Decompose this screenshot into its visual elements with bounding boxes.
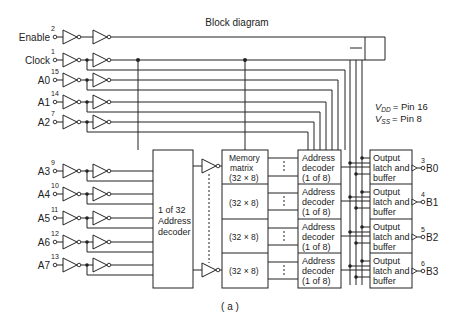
input-pin-a3: 9 bbox=[51, 159, 55, 166]
input-labels: Enable 2 Clock 1 A0 15 A1 14 A2 7 A3 9 A… bbox=[19, 25, 59, 271]
output-b3: B36 bbox=[412, 260, 439, 277]
addr-decoder-0-line1: Address bbox=[302, 153, 336, 163]
input-label-a5: A5 bbox=[38, 213, 51, 224]
addr-decoder-3-line1: Address bbox=[302, 256, 336, 266]
addr-decoder-2-line1: Address bbox=[302, 222, 336, 232]
addr-decoder-0-line3: (1 of 8) bbox=[302, 173, 331, 183]
input-pin-enable: 2 bbox=[51, 25, 55, 32]
input-buffers bbox=[53, 30, 385, 44]
diagram-title: Block diagram bbox=[205, 17, 268, 28]
buffer-chain-a6 bbox=[53, 235, 153, 252]
buffer-chain-a1 bbox=[53, 95, 111, 112]
output-label: B0 bbox=[426, 163, 439, 174]
input-label-a3: A3 bbox=[38, 166, 51, 177]
power-note: VDD= Pin 16 VSS= Pin 8 bbox=[375, 101, 428, 125]
memory-cell-0: (32 × 8) bbox=[229, 173, 259, 183]
input-label-a6: A6 bbox=[38, 237, 51, 248]
input-pin-a6: 12 bbox=[51, 230, 59, 237]
input-pin-a2: 7 bbox=[51, 110, 55, 117]
buffer-chain-a7 bbox=[53, 258, 153, 275]
figure-caption: ( a ) bbox=[221, 301, 239, 312]
input-label-a2: A2 bbox=[38, 117, 51, 128]
addr-decoder-1-line2: decoder bbox=[302, 197, 335, 207]
input-pin-a0: 15 bbox=[51, 68, 59, 75]
latch-1-line3: buffer bbox=[373, 207, 396, 217]
latch-1-line2: latch and bbox=[373, 197, 410, 207]
decoder32-line3: decoder bbox=[158, 227, 191, 237]
addr-decoder-1-line3: (1 of 8) bbox=[302, 207, 331, 217]
block-diagram: Block diagram Enable 2 Clock 1 A0 15 A1 … bbox=[0, 0, 462, 336]
memory-matrix-block: Memory matrix (32 × 8) (32 × 8) (32 × 8)… bbox=[222, 150, 268, 288]
input-label-a4: A4 bbox=[38, 189, 51, 200]
output-pin: 3 bbox=[421, 157, 425, 164]
latch-2-line2: latch and bbox=[373, 232, 410, 242]
input-pin-a4: 10 bbox=[51, 182, 59, 189]
decoder32-line1: 1 of 32 bbox=[158, 205, 186, 215]
addr-decoder-3-line2: decoder bbox=[302, 266, 335, 276]
latch-0-line2: latch and bbox=[373, 163, 410, 173]
buffer-chain-clock bbox=[53, 53, 111, 70]
input-label-clock: Clock bbox=[25, 55, 51, 66]
enable-buffer-chain bbox=[53, 30, 385, 44]
output-label: B3 bbox=[426, 266, 439, 277]
output-label: B1 bbox=[426, 197, 439, 208]
output-pin: 4 bbox=[421, 191, 425, 198]
output-b0: B03 bbox=[412, 157, 439, 174]
input-pin-clock: 1 bbox=[51, 48, 55, 55]
input-pin-a7: 13 bbox=[51, 253, 59, 260]
svg-text:VDD= Pin 16: VDD= Pin 16 bbox=[375, 101, 428, 113]
output-b1: B14 bbox=[412, 191, 439, 208]
addr-decoder-3-line3: (1 of 8) bbox=[302, 276, 331, 286]
memory-line1: Memory bbox=[229, 153, 260, 163]
addr-decoder-0-line2: decoder bbox=[302, 163, 335, 173]
input-label-a7: A7 bbox=[38, 260, 51, 271]
input-pin-a5: 11 bbox=[51, 206, 58, 213]
addr-decoder-2-line3: (1 of 8) bbox=[302, 242, 331, 252]
input-label-a0: A0 bbox=[38, 75, 51, 86]
buffer-chain-a3 bbox=[53, 164, 153, 181]
latch-0-line1: Output bbox=[373, 153, 401, 163]
output-pin: 6 bbox=[421, 260, 425, 267]
row-drivers bbox=[193, 159, 222, 277]
buffer-chain-a5 bbox=[53, 211, 153, 228]
svg-text:VSS= Pin 8: VSS= Pin 8 bbox=[375, 113, 422, 125]
buffer-chain-a0 bbox=[53, 73, 111, 90]
memory-cell-2: (32 × 8) bbox=[229, 232, 259, 242]
latch-2-line3: buffer bbox=[373, 242, 396, 252]
input-label-enable: Enable bbox=[19, 32, 51, 43]
latch-1-line1: Output bbox=[373, 187, 401, 197]
latch-3-line2: latch and bbox=[373, 266, 410, 276]
latch-3-line1: Output bbox=[373, 256, 401, 266]
memory-to-decoder-lines bbox=[268, 158, 298, 279]
output-label: B2 bbox=[426, 232, 439, 243]
buffer-chain-a2 bbox=[53, 115, 111, 132]
input-pin-a1: 14 bbox=[51, 90, 59, 97]
memory-cell-1: (32 × 8) bbox=[229, 198, 259, 208]
addr-decoder-2-line2: decoder bbox=[302, 232, 335, 242]
output-b2: B25 bbox=[412, 226, 439, 243]
memory-line2: matrix bbox=[230, 163, 254, 173]
decoder32-line2: Address bbox=[158, 216, 192, 226]
latch-0-line3: buffer bbox=[373, 173, 396, 183]
control-routing bbox=[111, 37, 385, 60]
latch-2-line1: Output bbox=[373, 222, 401, 232]
latch-3-line3: buffer bbox=[373, 276, 396, 286]
buffer-chain-a4 bbox=[53, 187, 153, 204]
output-pin: 5 bbox=[421, 226, 425, 233]
memory-cell-3: (32 × 8) bbox=[229, 266, 259, 276]
addr-decoder-1-line1: Address bbox=[302, 187, 336, 197]
input-label-a1: A1 bbox=[38, 97, 51, 108]
